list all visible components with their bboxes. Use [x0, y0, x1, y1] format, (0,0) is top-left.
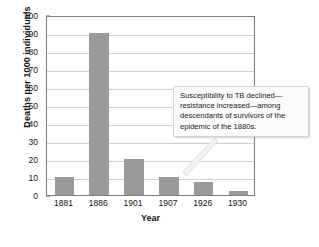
y-tick-label: 40: [8, 119, 38, 129]
y-tick-label: 50: [8, 101, 38, 111]
y-tick-label: 60: [8, 83, 38, 93]
x-tick-label: 1881: [54, 198, 73, 208]
y-tick-label: 20: [8, 155, 38, 165]
x-tick-label: 1926: [193, 198, 212, 208]
tb-deaths-bar-chart: Deaths per 1000 individuals 010203040506…: [0, 0, 319, 247]
y-tick-label: 0: [8, 191, 38, 201]
x-tick-label: 1930: [228, 198, 247, 208]
y-tick-label: 30: [8, 137, 38, 147]
x-tick-label: 1886: [89, 198, 108, 208]
bar-1926: [194, 182, 214, 195]
bar-1907: [159, 177, 179, 195]
susceptibility-callout: Susceptibility to TB declined—resistance…: [173, 86, 309, 137]
x-tick-label: 1907: [158, 198, 177, 208]
bar-1930: [229, 191, 249, 195]
callout-text: Susceptibility to TB declined—resistance…: [180, 91, 303, 132]
y-tick-label: 70: [8, 65, 38, 75]
x-tick-label: 1901: [124, 198, 143, 208]
x-axis-ticks: 188118861901190719261930: [46, 198, 255, 214]
y-tick-label: 90: [8, 29, 38, 39]
bar-1881: [55, 177, 75, 195]
bar-1901: [124, 159, 144, 195]
y-tick-label: 10: [8, 173, 38, 183]
y-tick-label: 100: [8, 11, 38, 21]
y-axis-ticks: 0102030405060708090100: [0, 0, 46, 247]
y-tick-label: 80: [8, 47, 38, 57]
x-axis-title: Year: [46, 213, 255, 223]
bar-1886: [89, 33, 109, 195]
